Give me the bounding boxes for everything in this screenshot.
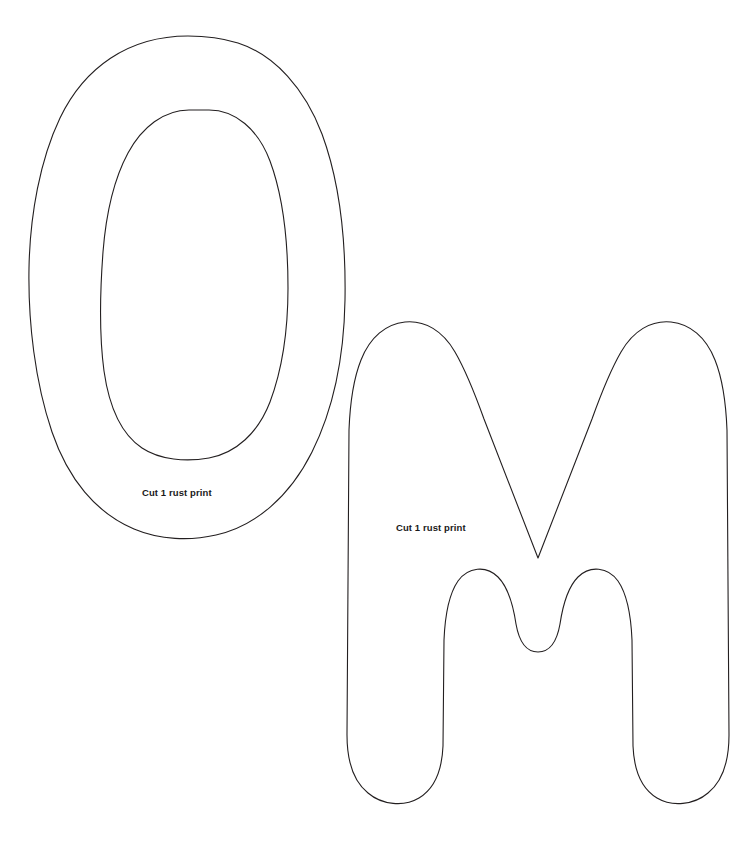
pattern-piece-letter-o[interactable] <box>29 36 345 539</box>
letter-m-cut-label: Cut 1 rust print <box>396 522 466 533</box>
pattern-outlines-canvas <box>0 0 752 849</box>
letter-o-counter-outline <box>101 110 289 460</box>
pattern-piece-letter-m[interactable] <box>347 322 729 804</box>
pattern-sheet: Cut 1 rust print Cut 1 rust print <box>0 0 752 849</box>
letter-o-cut-label: Cut 1 rust print <box>142 487 212 498</box>
letter-o-outer-outline <box>29 36 345 539</box>
letter-m-outline <box>347 322 729 804</box>
